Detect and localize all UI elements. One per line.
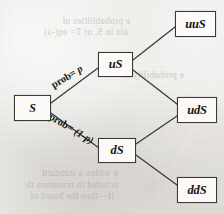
tree-node-dds[interactable]: ddS [177, 177, 217, 203]
tree-node-us[interactable]: uS [98, 52, 133, 77]
tree-node-uds[interactable]: udS [177, 97, 217, 123]
tree-node-label: ddS [188, 183, 207, 198]
figure-canvas: e probabilities of ain in S, or T= eq(-s… [0, 0, 224, 214]
branch-u-to-ud [133, 70, 177, 104]
tree-node-ds[interactable]: dS [98, 138, 136, 163]
branch-d-to-dd [136, 155, 177, 185]
branch-u-to-uu [133, 27, 175, 60]
tree-node-label: S [29, 101, 35, 116]
tree-node-label: dS [111, 143, 124, 158]
branch-d-to-ud [136, 116, 177, 144]
tree-node-root-s[interactable]: S [14, 95, 51, 121]
tree-node-label: uS [109, 57, 123, 72]
tree-node-uus[interactable]: uuS [175, 11, 216, 37]
tree-node-label: uuS [185, 17, 205, 32]
tree-node-label: udS [187, 103, 207, 118]
